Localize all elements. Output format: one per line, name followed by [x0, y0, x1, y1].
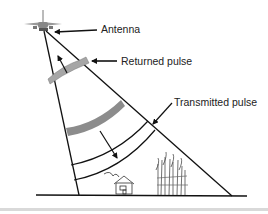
radar-diagram: Antenna Returned pulse Transmitted pulse — [0, 0, 268, 214]
bottom-separator — [0, 208, 268, 211]
reflection-arrow — [100, 131, 117, 158]
antenna-label-arrow — [55, 30, 97, 32]
house-icon — [104, 172, 134, 194]
antenna-label: Antenna — [101, 23, 140, 35]
transmitted-pulse-label: Transmitted pulse — [174, 96, 257, 108]
returned-pulse-band — [48, 57, 89, 84]
transmitted-pulse-band — [66, 100, 125, 136]
returned-pulse-label: Returned pulse — [121, 55, 192, 67]
transmitted-label-arrow — [153, 103, 172, 124]
ground-line — [36, 195, 247, 196]
airplane-icon — [24, 10, 62, 31]
trees-icon — [156, 152, 188, 195]
